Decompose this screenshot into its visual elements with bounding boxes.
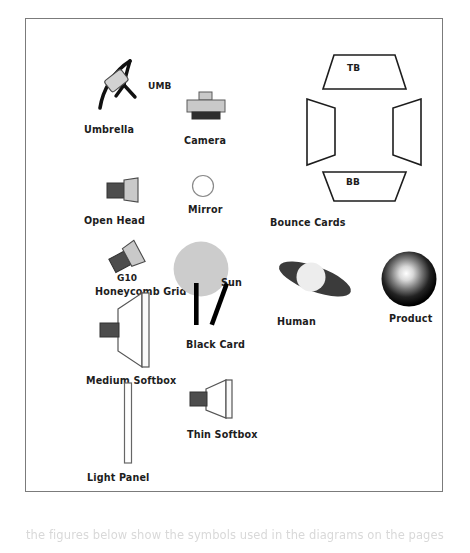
bounce-panel-bottom: [323, 172, 406, 201]
thin-softbox-label: Thin Softbox: [187, 429, 258, 440]
honeycomb-grid-icon: [108, 241, 148, 273]
human-subject-icon: [273, 254, 357, 304]
black-card-icon: [189, 281, 235, 329]
product-sphere-icon: [381, 251, 437, 307]
bounce-panel-right: [393, 99, 421, 165]
camera-icon: [184, 91, 230, 125]
bounce-panel-top: [323, 55, 406, 89]
black-card-label: Black Card: [186, 339, 245, 350]
page-caption: the figures below show the symbols used …: [26, 528, 446, 548]
bounce-cards-label: Bounce Cards: [270, 217, 346, 228]
camera-label: Camera: [184, 135, 226, 146]
open-head-light-icon: [106, 177, 146, 203]
thin-softbox-icon: [188, 377, 240, 421]
medium-softbox-icon: [98, 291, 154, 369]
bounce-cards-icon: [301, 51, 427, 203]
legend-page: UMB Umbrella Camera: [0, 0, 470, 553]
umbrella-label: Umbrella: [84, 124, 134, 135]
bounce-panel-top-label: TB: [347, 63, 360, 73]
human-label: Human: [277, 316, 316, 327]
umbrella-reflector-icon: [94, 59, 156, 111]
light-panel-label: Light Panel: [87, 472, 150, 483]
bounce-panel-left: [307, 99, 335, 165]
open-head-label: Open Head: [84, 215, 145, 226]
mirror-label: Mirror: [188, 204, 223, 215]
bounce-panel-bottom-label: BB: [346, 177, 360, 187]
product-label: Product: [389, 313, 432, 324]
mirror-icon: [191, 174, 215, 198]
honeycomb-badge: G10: [117, 273, 137, 283]
legend-frame: UMB Umbrella Camera: [25, 18, 443, 492]
umbrella-badge: UMB: [148, 81, 171, 91]
light-panel-icon: [121, 382, 135, 464]
